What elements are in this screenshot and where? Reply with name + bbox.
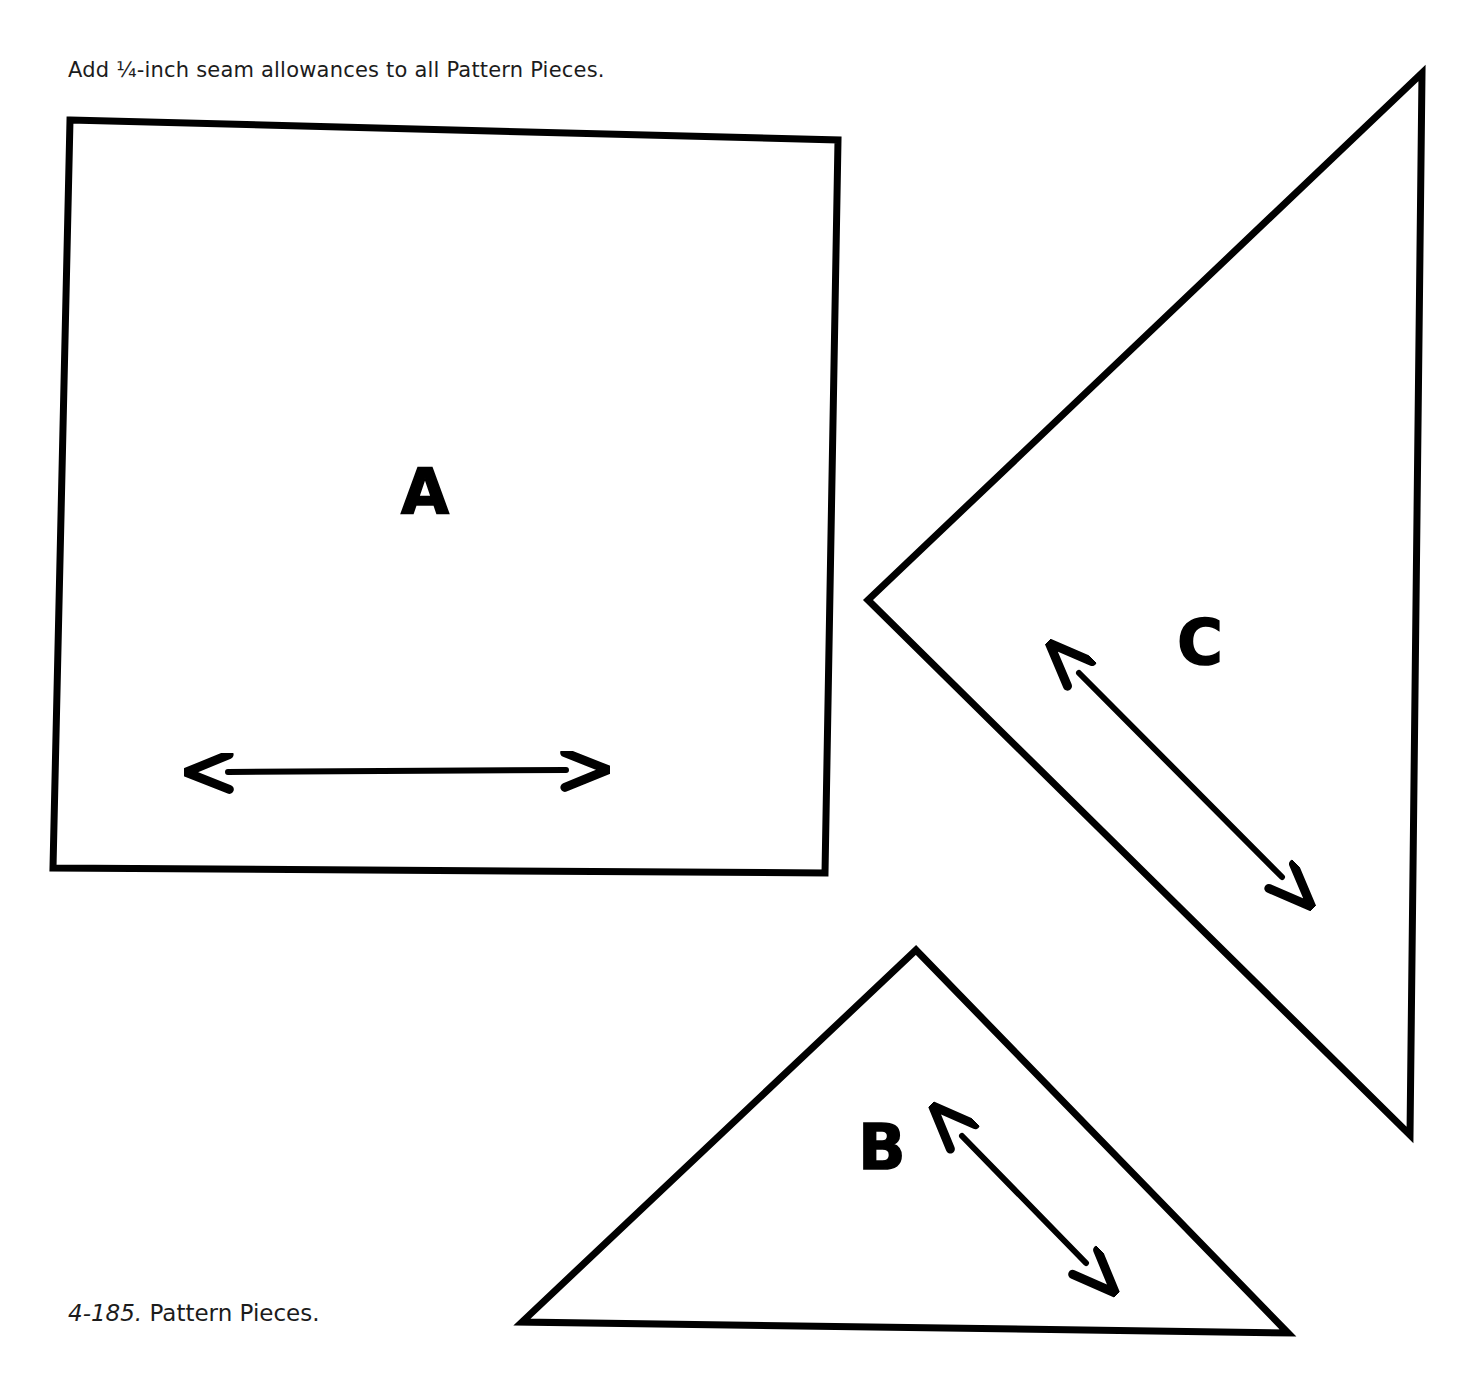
piece-outline-c	[868, 73, 1422, 1135]
pattern-pieces-figure-page: Add ¼-inch seam allowances to all Patter…	[0, 0, 1468, 1378]
piece-label-c: C	[1177, 612, 1223, 674]
pattern-pieces-drawing	[0, 0, 1468, 1378]
grain-arrow-a	[228, 770, 566, 772]
piece-label-b: B	[858, 1117, 905, 1179]
figure-caption-number: 4-185.	[68, 1300, 142, 1326]
figure-caption-title: Pattern Pieces.	[149, 1300, 319, 1326]
figure-caption: 4-185. Pattern Pieces.	[68, 1300, 320, 1326]
piece-label-a: A	[401, 461, 449, 523]
